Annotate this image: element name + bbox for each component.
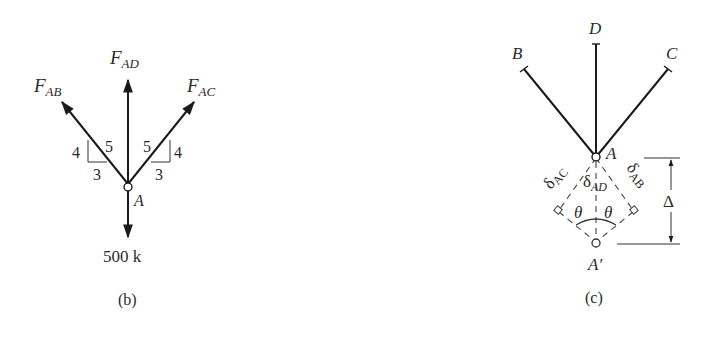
slope-right-rise: 4 (174, 144, 182, 161)
slope-right-run: 3 (155, 166, 163, 183)
force-label-ad: FAD (109, 47, 140, 71)
node-label-b: B (512, 44, 523, 63)
caption-b: (b) (118, 291, 137, 309)
joint-a-icon (592, 153, 600, 161)
angle-label-right: θ (604, 203, 612, 222)
figure-c-displacement-diagram: B D C A A′ δAC δAD δAB θ θ Δ (c) (512, 19, 680, 307)
deformation-label-ac: δAC (539, 161, 571, 193)
member-ab (524, 69, 596, 157)
joint-a-prime-icon (592, 239, 600, 247)
force-label-ab: FAB (33, 75, 62, 99)
angle-label-left: θ (574, 203, 582, 222)
figure-b-free-body-diagram: FAB FAD FAC 4 5 3 5 4 3 A 500 k (b) (33, 47, 216, 309)
node-label-c: C (666, 44, 678, 63)
slope-left-rise: 4 (72, 144, 80, 161)
joint-a-icon (124, 183, 132, 191)
displacement-label: Δ (663, 192, 674, 211)
truss-figures: FAB FAD FAC 4 5 3 5 4 3 A 500 k (b) (0, 0, 704, 339)
joint-label-a: A (133, 192, 144, 209)
node-label-a: A (605, 144, 617, 163)
deformation-label-ad: δAD (583, 172, 607, 194)
slope-left-hyp: 5 (105, 138, 113, 155)
dashed-right-perp (596, 212, 633, 242)
node-label-d: D (588, 19, 602, 38)
caption-c: (c) (585, 289, 603, 307)
slope-right-hyp: 5 (143, 138, 151, 155)
load-label: 500 k (103, 247, 142, 266)
deformation-label-ab: δAB (621, 159, 653, 191)
slope-left-run: 3 (93, 166, 101, 183)
node-label-a-prime: A′ (587, 255, 602, 274)
force-label-ac: FAC (186, 75, 216, 99)
